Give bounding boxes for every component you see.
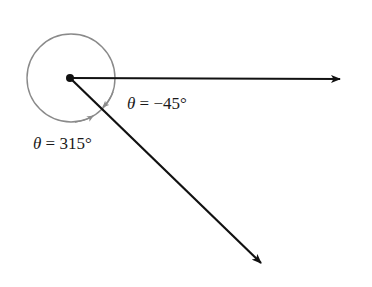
positive-angle-value: = 315° xyxy=(41,134,91,153)
negative-angle-value: = −45° xyxy=(135,94,186,113)
clockwise-arc-arrow-icon xyxy=(103,92,113,107)
origin-dot xyxy=(66,74,74,82)
counterclockwise-arc-arrow-icon xyxy=(75,116,93,122)
angle-diagram: θ = −45° θ = 315° xyxy=(0,0,372,287)
initial-ray xyxy=(70,78,340,79)
positive-angle-label: θ = 315° xyxy=(33,135,92,152)
negative-angle-label: θ = −45° xyxy=(127,95,187,112)
